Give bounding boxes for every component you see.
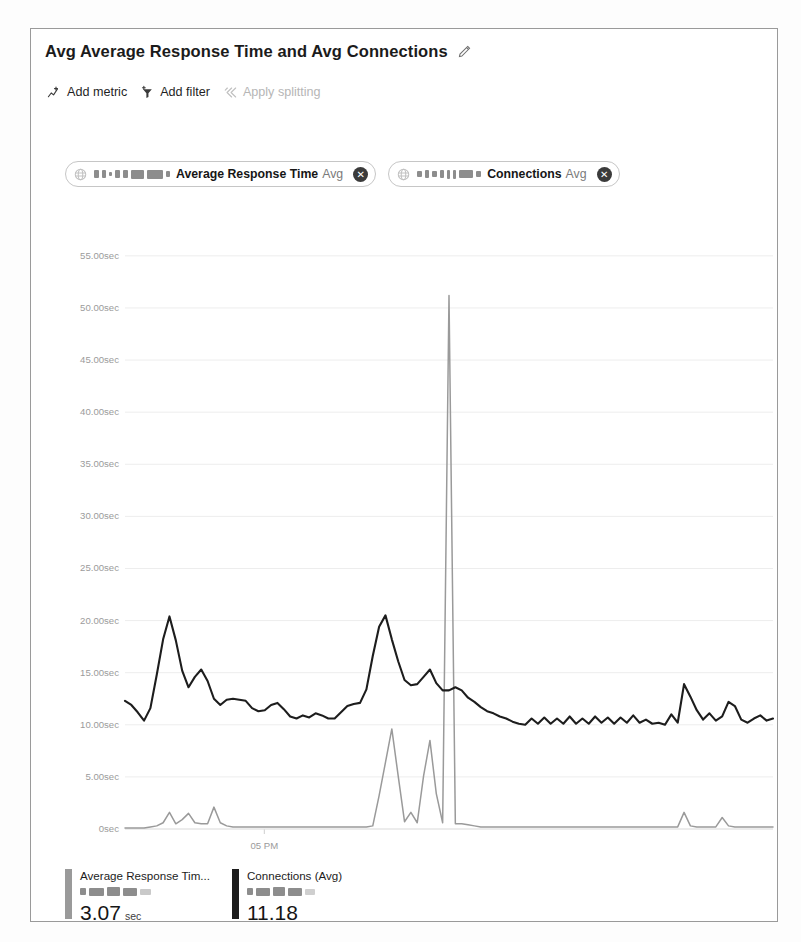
y-axis-tick-label: 50.00sec bbox=[80, 302, 119, 313]
y-axis-tick-label: 5.00sec bbox=[85, 771, 119, 782]
metrics-chart-card: Avg Average Response Time and Avg Connec… bbox=[30, 28, 778, 922]
redacted-resource-name bbox=[417, 169, 481, 180]
metric-chip-metric-name: Average Response Time bbox=[176, 167, 318, 181]
y-axis-tick-label: 25.00sec bbox=[80, 562, 119, 573]
redacted-resource-name bbox=[80, 886, 210, 897]
metric-chip-metric-name: Connections bbox=[487, 167, 561, 181]
apply-splitting-label: Apply splitting bbox=[243, 85, 321, 99]
x-axis-tick-label: 05 PM bbox=[250, 840, 278, 851]
y-axis-tick-label: 20.00sec bbox=[80, 615, 119, 626]
chart-svg: 55.00sec50.00sec45.00sec40.00sec35.00sec… bbox=[31, 205, 778, 865]
resource-icon bbox=[396, 167, 411, 182]
y-axis-tick-label: 40.00sec bbox=[80, 406, 119, 417]
legend-item-unit: sec bbox=[125, 910, 141, 922]
chart-plot-area[interactable]: 55.00sec50.00sec45.00sec40.00sec35.00sec… bbox=[31, 205, 778, 865]
legend-item-title: Average Response Tim... bbox=[80, 869, 210, 883]
add-metric-icon bbox=[47, 85, 62, 100]
y-axis-tick-label: 45.00sec bbox=[80, 354, 119, 365]
series-line-connections bbox=[125, 295, 773, 828]
legend-color-swatch bbox=[232, 869, 239, 919]
metric-chip-list: Average Response Time Avg ✕ bbox=[31, 157, 777, 191]
remove-metric-icon[interactable]: ✕ bbox=[353, 167, 368, 182]
y-axis-tick-label: 0sec bbox=[99, 823, 119, 834]
add-filter-label: Add filter bbox=[160, 85, 210, 99]
legend-item-title: Connections (Avg) bbox=[247, 869, 342, 883]
chart-toolbar: Add metric Add filter bbox=[31, 75, 777, 109]
add-metric-button[interactable]: Add metric bbox=[47, 85, 127, 100]
y-axis-tick-label: 15.00sec bbox=[80, 667, 119, 678]
remove-metric-icon[interactable]: ✕ bbox=[597, 167, 612, 182]
legend-color-swatch bbox=[65, 869, 72, 919]
metric-chip-aggregation: Avg bbox=[322, 167, 343, 181]
chart-legend: Average Response Tim... 3.07 sec Connect… bbox=[65, 869, 342, 922]
add-metric-label: Add metric bbox=[67, 85, 127, 99]
metric-chip-average-response-time[interactable]: Average Response Time Avg ✕ bbox=[65, 161, 376, 187]
legend-item-average-response-time[interactable]: Average Response Tim... 3.07 sec bbox=[65, 869, 210, 922]
legend-item-connections[interactable]: Connections (Avg) 11.18 bbox=[232, 869, 342, 922]
pencil-icon[interactable] bbox=[457, 44, 472, 59]
redacted-resource-name bbox=[247, 886, 342, 897]
screenshot-root: Avg Average Response Time and Avg Connec… bbox=[0, 0, 801, 942]
apply-splitting-icon bbox=[223, 85, 238, 100]
resource-icon bbox=[73, 167, 88, 182]
apply-splitting-button[interactable]: Apply splitting bbox=[223, 85, 321, 100]
y-axis-tick-label: 10.00sec bbox=[80, 719, 119, 730]
add-filter-button[interactable]: Add filter bbox=[140, 85, 210, 100]
metric-chip-connections[interactable]: Connections Avg ✕ bbox=[388, 161, 619, 187]
legend-item-value: 3.07 bbox=[80, 901, 121, 922]
metric-chip-aggregation: Avg bbox=[566, 167, 587, 181]
y-axis-tick-label: 30.00sec bbox=[80, 510, 119, 521]
legend-item-value: 11.18 bbox=[247, 901, 298, 922]
chart-title-row: Avg Average Response Time and Avg Connec… bbox=[31, 29, 777, 73]
series-line-average-response-time bbox=[125, 615, 773, 724]
y-axis-tick-label: 55.00sec bbox=[80, 250, 119, 261]
add-filter-icon bbox=[140, 85, 155, 100]
redacted-resource-name bbox=[94, 169, 170, 180]
y-axis-tick-label: 35.00sec bbox=[80, 458, 119, 469]
page-title: Avg Average Response Time and Avg Connec… bbox=[45, 42, 448, 61]
